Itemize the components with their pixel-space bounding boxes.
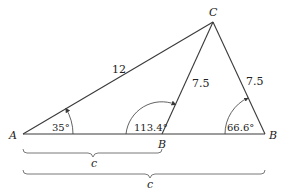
side-ac <box>23 22 213 134</box>
side-label-ac: 12 <box>112 63 126 76</box>
brace-long <box>23 170 265 178</box>
brace-label-long: c <box>147 178 153 191</box>
vertex-label-c: C <box>209 6 218 19</box>
vertex-label-b2: B <box>268 129 277 142</box>
vertex-label-b1: B <box>157 138 166 151</box>
side-label-b1c: 7.5 <box>192 77 210 90</box>
angle-label-b1: 113.4° <box>134 122 168 133</box>
brace-label-short: c <box>91 157 97 170</box>
side-label-b2c: 7.5 <box>246 75 264 88</box>
angle-label-b2: 66.6° <box>227 122 254 133</box>
ambiguous-case-triangle-diagram: A B B C 12 7.5 7.5 35° 113.4° 66.6° c c <box>0 0 284 193</box>
brace-short <box>23 149 162 157</box>
vertex-label-a: A <box>8 129 17 142</box>
angle-label-a: 35° <box>52 122 70 133</box>
